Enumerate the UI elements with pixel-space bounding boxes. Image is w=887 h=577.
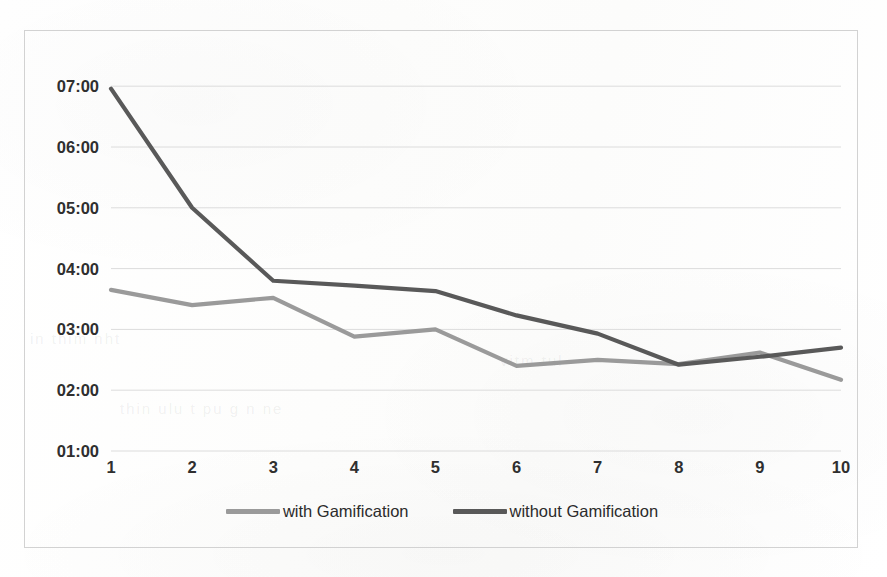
legend-entry[interactable]: with Gamification: [226, 502, 409, 521]
chart-container: 07:0006:0005:0004:0003:0002:0001:00 1234…: [24, 30, 858, 548]
legend-swatch-icon: [453, 509, 507, 514]
x-axis-tick-label: 9: [740, 458, 780, 477]
y-axis-tick-label: 01:00: [25, 442, 99, 461]
x-axis-tick-label: 6: [497, 458, 537, 477]
x-axis-tick-label: 1: [91, 458, 131, 477]
x-axis-tick-label: 4: [334, 458, 374, 477]
legend-label: without Gamification: [510, 502, 659, 521]
series-line: [111, 89, 841, 365]
x-axis-tick-label: 2: [172, 458, 212, 477]
legend-swatch-icon: [226, 509, 280, 514]
chart-legend: with Gamificationwithout Gamification: [25, 502, 859, 521]
y-axis-tick-label: 03:00: [25, 320, 99, 339]
x-axis-tick-label: 5: [415, 458, 455, 477]
y-axis-tick-label: 02:00: [25, 381, 99, 400]
y-axis-tick-label: 05:00: [25, 198, 99, 217]
x-axis-tick-label: 3: [253, 458, 293, 477]
gridlines: [111, 86, 841, 451]
legend-entry[interactable]: without Gamification: [453, 502, 659, 521]
legend-label: with Gamification: [283, 502, 409, 521]
y-axis-tick-label: 06:00: [25, 138, 99, 157]
y-axis-tick-label: 04:00: [25, 259, 99, 278]
x-axis-tick-label: 10: [821, 458, 861, 477]
y-axis-tick-label: 07:00: [25, 77, 99, 96]
x-axis-tick-label: 8: [659, 458, 699, 477]
x-axis-tick-label: 7: [578, 458, 618, 477]
series-lines: [111, 89, 841, 380]
